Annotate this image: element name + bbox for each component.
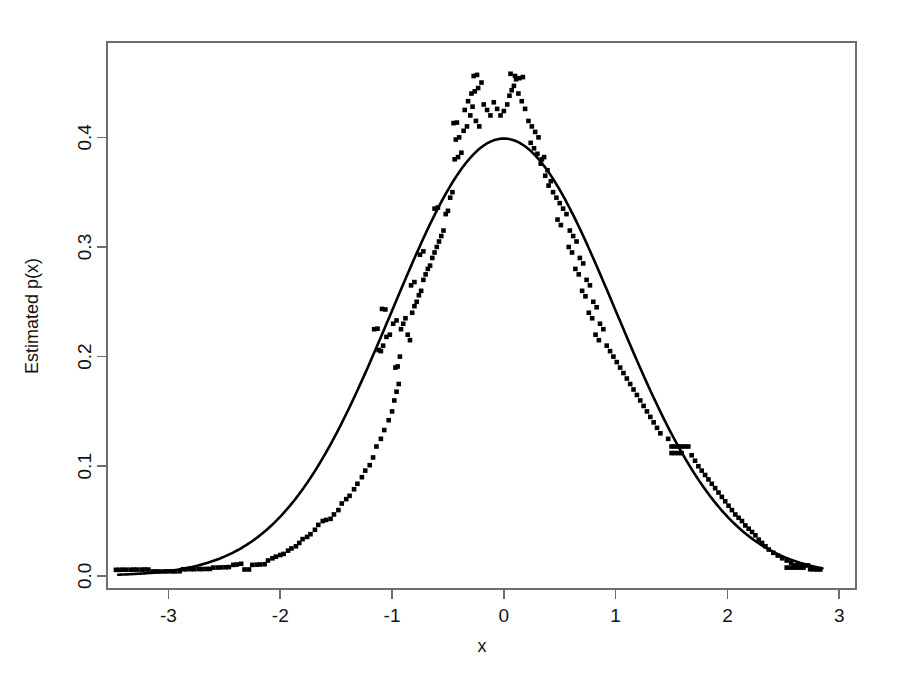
scatter-point [508,71,513,76]
scatter-point [488,113,493,118]
scatter-point [274,554,279,559]
scatter-point [594,305,599,310]
scatter-point [336,508,341,513]
scatter-point [432,250,437,255]
scatter-point [528,141,533,146]
scatter-point [498,113,503,118]
scatter-point [459,150,464,155]
scatter-point [706,477,711,482]
scatter-point [347,494,352,499]
scatter-point [374,444,379,449]
scatter-point [239,561,244,566]
scatter-point [258,562,263,567]
scatter-point [308,532,313,537]
scatter-point [533,130,538,135]
scatter-point [421,278,426,283]
scatter-point [211,565,216,570]
scatter-point [593,332,598,337]
scatter-point [300,537,305,542]
scatter-point [570,250,575,255]
scatter-point [571,234,576,239]
scatter-point [371,455,376,460]
scatter-point [530,124,535,129]
scatter-point [388,332,393,337]
scatter-point [696,464,701,469]
scatter-point [485,108,490,113]
scatter-point [410,310,415,315]
scatter-point [417,293,422,298]
scatter-point [581,261,586,266]
scatter-point [250,563,255,568]
scatter-point [693,458,698,463]
plot-frame [107,42,856,589]
scatter-point [375,326,380,331]
x-tick-label: 0 [499,605,510,626]
scatter-point [559,223,564,228]
scatter-point [614,360,619,365]
scatter-point [526,119,531,124]
scatter-point [505,102,510,107]
fitted-normal-curve [118,139,822,575]
scatter-point [753,533,758,538]
scatter-point [509,88,514,93]
scatter-point [227,565,232,570]
scatter-point [574,239,579,244]
scatter-point [124,567,129,572]
scatter-point [324,518,329,523]
scatter-point [621,371,626,376]
scatter-point [360,475,365,480]
scatter-point [401,321,406,326]
scatter-point [408,338,413,343]
x-tick-label: 3 [834,605,845,626]
scatter-point [666,437,671,442]
scatter-point [495,107,500,112]
scatter-point [468,113,473,118]
x-axis-title: x [478,636,487,656]
scatter-point [394,318,399,323]
scatter-point [689,453,694,458]
scatter-point [519,99,524,104]
scatter-point [247,567,252,572]
scatter-point [477,124,482,129]
scatter-point [601,327,606,332]
scatter-point [713,486,718,491]
scatter-point [587,310,592,315]
scatter-point [379,437,384,442]
scatter-point [474,119,479,124]
scatter-point [551,190,556,195]
scatter-point [720,495,725,500]
scatter-point [554,195,559,200]
scatter-point [419,289,424,294]
y-axis-title: Estimated p(x) [22,258,42,374]
scatter-point [521,75,526,80]
scatter-point [135,567,140,572]
scatter-point [466,99,471,104]
scatter-point [604,343,609,348]
scatter-point [625,376,630,381]
scatter-point [423,272,428,277]
y-axis-ticks: 0.00.10.20.30.4 [75,124,108,589]
scatter-point [608,349,613,354]
scatter-point [580,289,585,294]
scatter-point [561,206,566,211]
scatter-point [709,481,714,486]
y-tick-label: 0.3 [75,234,96,260]
scatter-point [542,155,547,160]
scatter-point [564,212,569,217]
scatter-point [536,135,541,140]
x-tick-label: -1 [384,605,401,626]
scatter-point [434,245,439,250]
scatter-point [686,444,691,449]
scatter-point [655,426,660,431]
scatter-point [470,104,475,109]
scatter-point [651,420,656,425]
scatter-point [507,93,512,98]
scatter-point [332,512,337,517]
y-tick-label: 0.2 [75,343,96,369]
scatter-point [578,256,583,261]
scatter-point [386,418,391,423]
y-tick-label: 0.0 [75,563,96,589]
scatter-point [381,343,386,348]
scatter-point [363,468,368,473]
scatter-point [450,190,455,195]
